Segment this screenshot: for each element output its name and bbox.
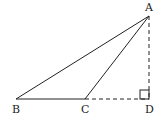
triangle-figure: A B C D [0, 0, 164, 120]
label-d: D [145, 103, 154, 116]
segment-ac [85, 16, 149, 99]
segment-ab [16, 16, 149, 99]
label-c: C [81, 103, 89, 116]
label-b: B [12, 103, 20, 116]
geometry-diagram: A B C D [0, 0, 164, 120]
label-a: A [144, 1, 154, 14]
right-angle-marker [140, 90, 149, 99]
